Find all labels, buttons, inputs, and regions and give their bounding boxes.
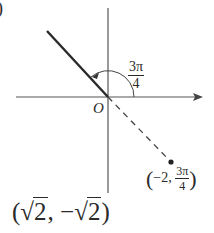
y-value: 2 — [87, 197, 102, 226]
point-r: −2 — [153, 170, 168, 185]
rectangular-answer: (√2, −√2) — [12, 197, 110, 226]
dashed-ray — [108, 97, 171, 162]
x-value: 2 — [33, 197, 48, 226]
angle-label: 3π 4 — [128, 60, 144, 91]
terminal-ray — [47, 31, 108, 97]
x-sqrt-symbol: √ — [20, 198, 34, 225]
point-label: (−2, 3π 4 ) — [146, 165, 197, 192]
point-theta-numerator: 3π — [175, 165, 189, 179]
origin-label: O — [93, 100, 104, 117]
point-marker — [168, 159, 173, 164]
point-theta-denominator: 4 — [179, 179, 185, 192]
angle-numerator: 3π — [128, 60, 144, 76]
corner-mark: ) — [0, 0, 3, 19]
angle-denominator: 4 — [133, 76, 140, 91]
y-sqrt-symbol: −√ — [60, 198, 88, 225]
